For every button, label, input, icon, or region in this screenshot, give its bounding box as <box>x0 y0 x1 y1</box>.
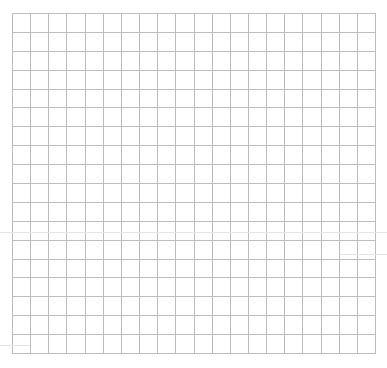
grid-horizontal-line <box>12 183 376 184</box>
grid-horizontal-line <box>12 70 376 71</box>
grid-horizontal-line <box>12 126 376 127</box>
grid-horizontal-line <box>12 315 376 316</box>
grid-horizontal-line <box>12 334 376 335</box>
faint-scan-line <box>0 232 387 233</box>
grid-horizontal-line <box>12 202 376 203</box>
faint-scan-line <box>340 254 387 255</box>
grid-horizontal-line <box>12 353 376 354</box>
grid-horizontal-line <box>12 32 376 33</box>
graph-paper-canvas <box>0 0 387 368</box>
grid-horizontal-line <box>12 107 376 108</box>
grid-horizontal-line <box>12 89 376 90</box>
grid-horizontal-line <box>12 259 376 260</box>
grid-horizontal-line <box>12 296 376 297</box>
grid-horizontal-line <box>12 145 376 146</box>
grid-horizontal-line <box>12 277 376 278</box>
grid-horizontal-line <box>12 51 376 52</box>
grid-horizontal-line <box>12 221 376 222</box>
grid <box>12 13 376 354</box>
faint-scan-line <box>0 345 30 346</box>
grid-horizontal-line <box>12 164 376 165</box>
grid-horizontal-line <box>12 13 376 14</box>
grid-horizontal-line <box>12 240 376 241</box>
